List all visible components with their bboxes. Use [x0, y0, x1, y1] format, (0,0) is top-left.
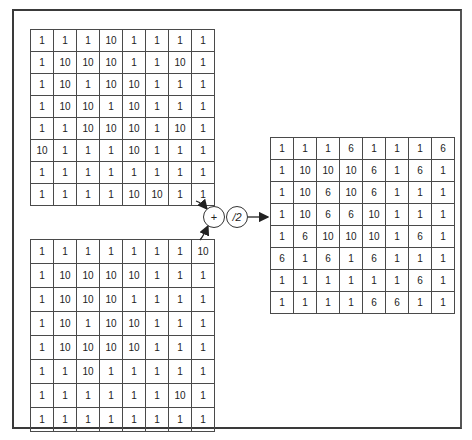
- arrow-a-to-add: [196, 201, 207, 209]
- arrow-b-to-add: [200, 226, 208, 240]
- divide-operator: /2: [226, 206, 248, 228]
- add-operator: +: [203, 206, 225, 228]
